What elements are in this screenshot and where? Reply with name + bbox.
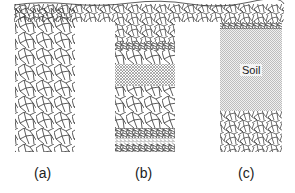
layer-fine-dense <box>115 64 175 86</box>
panel-b-label: (b) <box>135 165 152 181</box>
layer-coarse-top <box>115 22 175 42</box>
layer-coarse-2 <box>115 50 175 64</box>
layer-rock-base <box>220 111 282 152</box>
panel-a-label: (a) <box>34 165 51 181</box>
layer-gravel-2 <box>115 128 175 138</box>
layer-gravel-top <box>220 22 282 29</box>
layer-coarse-3 <box>115 86 175 128</box>
layer-sand <box>115 138 175 144</box>
panel-c-label: (c) <box>238 165 254 181</box>
panel-c-column <box>220 22 282 152</box>
soil-label: Soil <box>240 64 262 76</box>
panel-b-column <box>115 22 175 152</box>
panel-a-column <box>15 8 75 152</box>
layer-gravel-bottom <box>115 144 175 152</box>
layer-gravel-1 <box>115 42 175 50</box>
